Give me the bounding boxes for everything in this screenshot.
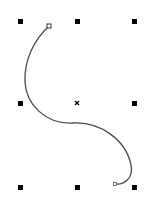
resize-handle-top-center[interactable] (75, 19, 80, 24)
resize-handle-bottom-right[interactable] (132, 185, 137, 190)
resize-handle-top-left[interactable] (18, 19, 23, 24)
resize-handle-bottom-left[interactable] (18, 185, 23, 190)
end-node-handle[interactable] (114, 183, 117, 186)
start-node-handle[interactable] (47, 24, 51, 28)
resize-handle-middle-left[interactable] (18, 101, 23, 106)
resize-handle-top-right[interactable] (132, 19, 137, 24)
rotation-center-icon[interactable] (75, 101, 79, 105)
resize-handle-bottom-center[interactable] (75, 185, 80, 190)
resize-handle-middle-right[interactable] (132, 101, 137, 106)
drawing-canvas[interactable] (0, 0, 157, 206)
